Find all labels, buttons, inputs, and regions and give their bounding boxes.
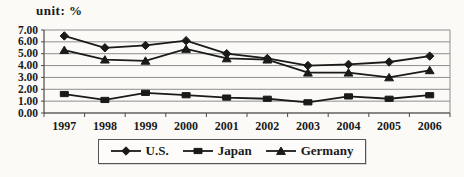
diamond-marker-icon	[182, 36, 190, 44]
square-marker-icon	[304, 100, 312, 105]
legend-item-germany: Germany	[266, 143, 354, 159]
y-tick-label: 5.00	[18, 47, 38, 59]
x-tick-label: 1997	[52, 119, 76, 133]
diamond-marker-icon	[141, 41, 149, 49]
y-tick-label: 3.00	[18, 71, 38, 83]
legend: U.S. Japan Germany	[98, 139, 367, 164]
x-tick-label: 1999	[134, 119, 158, 133]
y-tick-label: 4.00	[18, 59, 38, 71]
x-tick-label: 2006	[418, 119, 442, 133]
y-tick-label: 2.00	[18, 83, 38, 95]
diamond-marker-icon	[344, 60, 352, 68]
plot-area: 0.001.002.003.004.005.006.007.0019971998…	[0, 0, 464, 135]
x-tick-label: 1998	[93, 119, 117, 133]
y-tick-label: 7.00	[18, 24, 38, 36]
square-marker-icon	[263, 96, 271, 101]
x-tick-label: 2001	[215, 119, 239, 133]
square-marker-icon	[183, 146, 213, 156]
x-tick-label: 2004	[337, 119, 361, 133]
square-marker-icon	[60, 91, 68, 96]
triangle-marker-icon	[60, 46, 69, 53]
square-marker-icon	[426, 93, 434, 98]
diamond-marker-icon	[426, 52, 434, 60]
square-marker-icon	[345, 94, 353, 99]
x-tick-label: 2003	[296, 119, 320, 133]
diamond-marker-icon	[385, 58, 393, 66]
y-axis-labels: 0.001.002.003.004.005.006.007.00	[18, 24, 44, 119]
square-marker-icon	[101, 97, 109, 102]
x-axis-labels: 1997199819992000200120022003200420052006	[44, 113, 450, 133]
triangle-marker-icon	[266, 146, 296, 156]
diamond-marker-icon	[60, 32, 68, 40]
diamond-marker-icon	[111, 146, 141, 156]
square-marker-icon	[142, 90, 150, 95]
x-tick-label: 2002	[255, 119, 279, 133]
triangle-marker-icon	[182, 45, 191, 52]
legend-label-japan: Japan	[218, 143, 252, 159]
y-tick-label: 0.00	[18, 107, 38, 119]
legend-item-us: U.S.	[111, 143, 169, 159]
series-line	[64, 36, 429, 66]
x-tick-label: 2000	[174, 119, 198, 133]
legend-label-germany: Germany	[301, 143, 354, 159]
legend-label-us: U.S.	[146, 143, 169, 159]
square-marker-icon	[385, 96, 393, 101]
legend-row: U.S. Japan Germany	[0, 139, 464, 164]
series-japan	[60, 90, 433, 105]
square-marker-icon	[182, 93, 190, 98]
diamond-marker-icon	[101, 44, 109, 52]
square-marker-icon	[223, 95, 231, 100]
series-us	[60, 32, 434, 70]
x-tick-label: 2005	[377, 119, 401, 133]
line-chart: unit: % 0.001.002.003.004.005.006.007.00…	[0, 0, 464, 177]
y-tick-label: 1.00	[18, 95, 38, 107]
y-tick-label: 6.00	[18, 35, 38, 47]
legend-item-japan: Japan	[183, 143, 252, 159]
